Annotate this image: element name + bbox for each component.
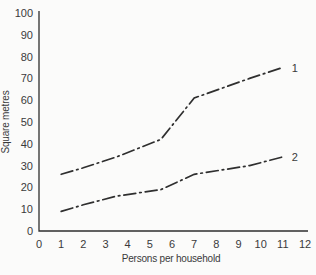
x-tick-label-5: 5 (147, 238, 153, 250)
x-tick-label-7: 7 (191, 238, 197, 250)
x-tick-label-9: 9 (235, 238, 241, 250)
x-tick-label-3: 3 (102, 238, 108, 250)
x-tick-label-10: 10 (255, 238, 267, 250)
series-line-2 (61, 157, 283, 212)
axes (39, 11, 308, 231)
x-tick-label-11: 11 (277, 238, 288, 250)
y-tick-label-20: 20 (21, 181, 33, 193)
y-tick-label-40: 40 (21, 138, 33, 150)
series-label-1: 1 (292, 62, 298, 74)
y-tick-label-100: 100 (15, 7, 33, 19)
y-tick-label-0: 0 (27, 225, 33, 237)
y-tick-label-90: 90 (21, 29, 33, 41)
x-tick-label-6: 6 (169, 238, 175, 250)
y-axis-title: Square metres (0, 90, 11, 153)
series-label-2: 2 (292, 151, 298, 163)
y-tick-label-80: 80 (21, 51, 33, 63)
x-tick-label-12: 12 (299, 238, 311, 250)
y-tick-label-30: 30 (21, 160, 33, 172)
x-axis-title: Persons per household (122, 253, 221, 264)
y-tick-label-70: 70 (21, 72, 33, 84)
x-tick-label-1: 1 (58, 238, 64, 250)
x-tick-label-0: 0 (36, 238, 42, 250)
x-tick-label-4: 4 (125, 238, 131, 250)
series-line-1 (61, 68, 283, 175)
x-tick-label-8: 8 (213, 238, 219, 250)
floor-space-per-household-chart: Persons per household Square metres 0102… (0, 0, 316, 275)
chart-canvas: Persons per household Square metres 0102… (0, 0, 316, 275)
x-tick-label-2: 2 (80, 238, 86, 250)
y-tick-label-60: 60 (21, 94, 33, 106)
y-tick-label-50: 50 (21, 116, 33, 128)
y-tick-label-10: 10 (21, 203, 33, 215)
